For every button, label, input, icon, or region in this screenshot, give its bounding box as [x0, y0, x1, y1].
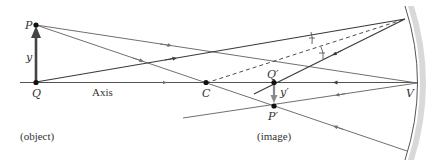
- point-p-prime: [271, 103, 276, 108]
- ray-mirror-top-reflected-arrow: [334, 50, 342, 54]
- point-c: [203, 80, 208, 85]
- object-arrowhead: [31, 26, 41, 38]
- ray-p-to-vertex-arrow: [160, 44, 170, 46]
- label-object: (object): [20, 130, 55, 143]
- point-p: [33, 22, 38, 27]
- label-image: (image): [257, 130, 292, 143]
- normal-dashed-line: [206, 19, 405, 83]
- label-p-prime: P′: [267, 110, 278, 123]
- label-y-prime: y′: [279, 86, 289, 99]
- label-c: C: [202, 87, 211, 100]
- label-y: y: [25, 51, 33, 64]
- ray-vertex-reflected-arrow: [337, 94, 345, 95]
- image-arrowhead: [271, 95, 278, 103]
- ray-vertex-reflected: [183, 83, 417, 118]
- ray-p-through-center-arrow: [133, 58, 142, 61]
- point-q: [33, 80, 38, 85]
- ray-center-return-arrow: [335, 127, 343, 130]
- label-q: Q: [32, 87, 41, 100]
- label-p: P: [24, 19, 33, 32]
- label-v: V: [406, 87, 415, 100]
- label-axis: Axis: [92, 86, 113, 98]
- label-q-prime: Q′: [267, 68, 279, 81]
- mirror-ray-diagram: P y Q Axis C Q′ y′ P′ V (object) (image): [0, 0, 443, 163]
